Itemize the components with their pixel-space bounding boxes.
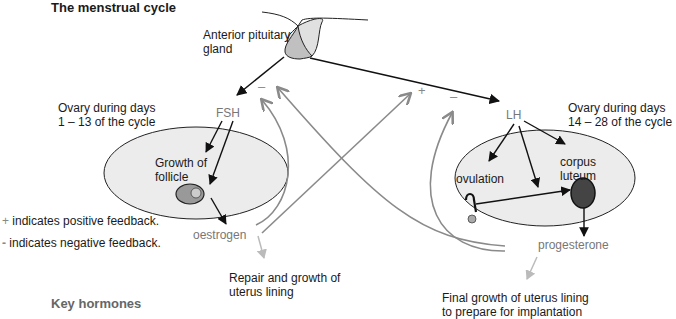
repair-uterus-lining-label: Repair and growth of uterus lining (229, 271, 340, 299)
hormone-fsh: FSH (216, 106, 240, 120)
repair-label-line2: uterus lining (229, 285, 340, 299)
repair-label-line1: Repair and growth of (229, 271, 340, 285)
arrow-oestrogen-to-uterus (258, 236, 264, 258)
page-title: The menstrual cycle (51, 1, 176, 15)
ovary1-label-line2: 1 – 13 of the cycle (58, 115, 155, 129)
legend-positive-text: indicates positive feedback. (9, 214, 159, 228)
hormone-progesterone: progesterone (538, 238, 609, 252)
legend-negative-feedback: - indicates negative feedback. (2, 236, 161, 250)
legend-negative-text: indicates negative feedback. (6, 236, 161, 250)
ovary2-label-line1: Ovary during days (568, 101, 672, 115)
positive-feedback-sign-lh: + (418, 84, 426, 98)
final-growth-uterus-label: Final growth of uterus lining to prepare… (442, 291, 589, 319)
hormone-oestrogen: oestrogen (193, 228, 246, 242)
released-egg-icon (468, 215, 476, 223)
egg-icon (191, 188, 201, 198)
key-hormones-heading: Key hormones (51, 297, 141, 311)
corpus-luteum-label: corpus luteum (560, 155, 596, 183)
plus-symbol-icon: + (2, 214, 9, 228)
ovary1-label-line1: Ovary during days (58, 101, 155, 115)
negative-feedback-sign-fsh: – (258, 80, 265, 94)
negative-feedback-sign-lh: – (450, 90, 457, 104)
corpus-label-line2: luteum (560, 169, 596, 183)
growth-label-line2: follicle (155, 170, 207, 184)
pituitary-label: Anterior pituitary gland (203, 28, 290, 56)
ovary2-label-line2: 14 – 28 of the cycle (568, 115, 672, 129)
arrow-pituitary-to-lh (310, 58, 499, 101)
pituitary-label-line2: gland (203, 42, 290, 56)
growth-of-follicle-label: Growth of follicle (155, 156, 207, 184)
pituitary-label-line1: Anterior pituitary (203, 28, 290, 42)
legend-positive-feedback: + indicates positive feedback. (2, 214, 159, 228)
ovulation-label: ovulation (456, 172, 504, 186)
ovary-days-14-28-label: Ovary during days 14 – 28 of the cycle (568, 101, 672, 129)
corpus-label-line1: corpus (560, 155, 596, 169)
final-label-line1: Final growth of uterus lining (442, 291, 589, 305)
arrow-progesterone-to-uterus (527, 257, 537, 279)
growth-label-line1: Growth of (155, 156, 207, 170)
hormone-lh: LH (506, 108, 521, 122)
final-label-line2: to prepare for implantation (442, 305, 589, 319)
ovary-days-1-13-label: Ovary during days 1 – 13 of the cycle (58, 101, 155, 129)
